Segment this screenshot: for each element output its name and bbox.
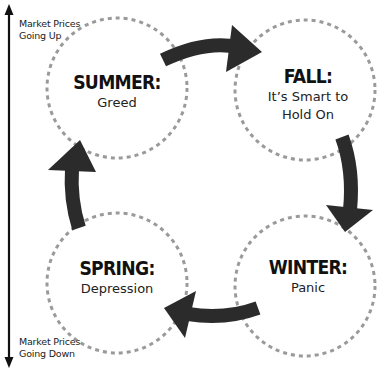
prices-up-line2: Going Up — [19, 30, 61, 41]
winter-description: Panic — [233, 279, 383, 297]
spring-label: SPRING: Depression — [42, 256, 192, 298]
winter-title: WINTER: — [244, 255, 373, 279]
arrow-fall-to-winter-icon — [326, 137, 373, 232]
fall-description-line2: Hold On — [233, 106, 383, 124]
spring-title: SPRING: — [53, 256, 182, 280]
prices-up-label: Market Prices Going Up — [19, 18, 80, 42]
cycle-diagram — [0, 0, 387, 372]
prices-down-line1: Market Prices — [19, 336, 80, 347]
arrow-winter-to-spring-icon — [164, 291, 258, 338]
spring-description: Depression — [42, 280, 192, 298]
winter-label: WINTER: Panic — [233, 255, 383, 297]
fall-label: FALL: It’s Smart to Hold On — [233, 64, 383, 124]
summer-label: SUMMER: Greed — [42, 70, 192, 112]
prices-down-line2: Going Down — [19, 348, 75, 359]
summer-title: SUMMER: — [53, 70, 182, 94]
fall-title: FALL: — [244, 64, 373, 88]
price-axis-arrow — [5, 4, 14, 368]
fall-description-line1: It’s Smart to — [233, 88, 383, 106]
prices-down-label: Market Prices Going Down — [19, 336, 80, 360]
prices-up-line1: Market Prices — [19, 18, 80, 29]
summer-description: Greed — [42, 94, 192, 112]
